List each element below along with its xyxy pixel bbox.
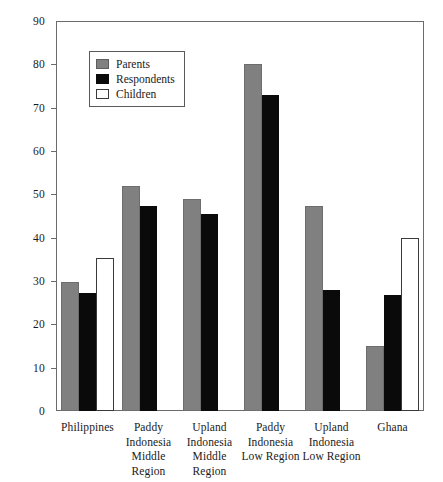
bar-respondents: [262, 95, 280, 411]
x-axis-label-line: Ghana: [345, 420, 441, 435]
y-axis-tick-mark: [51, 194, 56, 195]
legend-label: Parents: [116, 58, 150, 71]
y-axis-tick-mark: [51, 238, 56, 239]
bar-group: [183, 22, 236, 411]
y-axis-tick-label: 20: [5, 315, 45, 333]
bar-group: [244, 22, 297, 411]
legend-swatch-children: [96, 89, 109, 99]
y-axis-tick-label: 90: [5, 12, 45, 30]
legend-swatch-parents: [96, 59, 109, 69]
bar-children: [401, 238, 419, 411]
bar-parents: [183, 199, 201, 411]
legend-item-parents: Parents: [96, 57, 175, 71]
bar-respondents: [323, 290, 341, 411]
bar-parents: [305, 206, 323, 411]
x-axis-label-line: Low Region: [284, 449, 380, 464]
bar-respondents: [140, 206, 158, 411]
x-axis-label-line: Region: [162, 464, 258, 479]
y-axis-tick-label: 10: [5, 359, 45, 377]
y-axis-tick-mark: [51, 151, 56, 152]
legend-item-respondents: Respondents: [96, 72, 175, 86]
bar-group: [305, 22, 358, 411]
y-axis-tick-label: 40: [5, 229, 45, 247]
y-axis-tick-label: 80: [5, 55, 45, 73]
x-axis-label-line: Indonesia: [284, 435, 380, 450]
legend-item-children: Children: [96, 87, 175, 101]
bar-group: [366, 22, 419, 411]
y-axis-tick-mark: [51, 281, 56, 282]
y-axis-tick-label: 50: [5, 185, 45, 203]
bar-children: [96, 258, 114, 411]
bar-respondents: [201, 214, 219, 411]
y-axis-tick-mark: [51, 324, 56, 325]
legend-swatch-respondents: [96, 74, 109, 84]
bar-parents: [122, 186, 140, 411]
y-axis-tick-mark: [51, 64, 56, 65]
legend-label: Children: [116, 88, 156, 101]
y-axis: 0102030405060708090: [0, 0, 56, 482]
bar-respondents: [79, 293, 97, 411]
x-axis-label: Ghana: [345, 420, 441, 435]
bar-parents: [366, 346, 384, 411]
y-axis-tick-label: 70: [5, 99, 45, 117]
bar-respondents: [384, 295, 402, 411]
y-axis-tick-label: 30: [5, 272, 45, 290]
legend-label: Respondents: [116, 73, 175, 86]
bar-parents: [244, 64, 262, 411]
x-axis-labels: PhilippinesPaddyIndonesiaMiddleRegionUpl…: [0, 414, 443, 482]
y-axis-tick-mark: [51, 368, 56, 369]
y-axis-tick-mark: [51, 108, 56, 109]
bar-parents: [61, 282, 79, 411]
y-axis-tick-label: 60: [5, 142, 45, 160]
chart-legend: ParentsRespondentsChildren: [89, 51, 185, 107]
bar-chart: 0102030405060708090 ParentsRespondentsCh…: [0, 0, 443, 482]
